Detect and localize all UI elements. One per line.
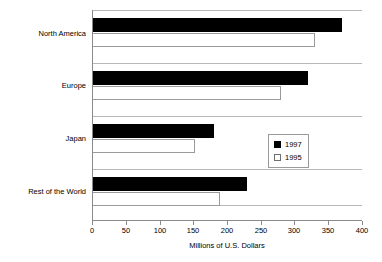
x-axis-tick-label-200: 200: [212, 226, 242, 235]
bar-europe-1997: [92, 71, 308, 85]
x-axis-tick-label-0: 0: [77, 226, 107, 235]
x-axis-tick: [328, 221, 329, 225]
bar-rest-of-the-world-1997: [92, 177, 247, 191]
bar-europe-1995: [92, 86, 281, 100]
x-axis-tick: [294, 221, 295, 225]
bar-rest-of-the-world-1995: [92, 192, 220, 206]
group-separator: [92, 169, 362, 170]
x-axis-tick: [227, 221, 228, 225]
x-axis-tick: [362, 221, 363, 225]
x-axis-tick-label-250: 250: [246, 226, 276, 235]
category-label-europe: Europe: [62, 81, 86, 90]
bar-north-america-1997: [92, 18, 342, 32]
x-axis-tick: [193, 221, 194, 225]
group-separator: [92, 63, 362, 64]
x-axis-tick: [160, 221, 161, 225]
legend-item-1995: 1995: [274, 152, 302, 163]
x-axis-tick-label-100: 100: [145, 226, 175, 235]
legend-label-1995: 1995: [285, 153, 302, 162]
bar-japan-1995: [92, 139, 195, 153]
x-axis-tick: [92, 221, 93, 225]
legend-swatch-filled-square-icon: [274, 141, 281, 148]
x-axis-tick: [261, 221, 262, 225]
x-axis-title: Millions of U.S. Dollars: [92, 241, 362, 250]
x-axis-tick-label-400: 400: [347, 226, 377, 235]
legend-swatch-open-square-icon: [274, 154, 281, 161]
legend-label-1997: 1997: [285, 140, 302, 149]
x-axis-tick-label-50: 50: [111, 226, 141, 235]
x-axis-tick-label-300: 300: [279, 226, 309, 235]
x-axis-tick-label-150: 150: [178, 226, 208, 235]
chart-legend: 1997 1995: [268, 134, 309, 168]
legend-item-1997: 1997: [274, 139, 302, 150]
x-axis-tick-label-350: 350: [313, 226, 343, 235]
category-label-rest-of-the-world: Rest of the World: [28, 187, 86, 196]
group-separator: [92, 116, 362, 117]
category-label-japan: Japan: [66, 134, 86, 143]
y-axis-line: [92, 10, 93, 221]
x-axis-tick: [126, 221, 127, 225]
category-label-north-america: North America: [38, 29, 86, 38]
bar-north-america-1995: [92, 33, 315, 47]
bar-chart: North America Europe Japan Rest of the W…: [0, 0, 382, 262]
bar-japan-1997: [92, 124, 214, 138]
group-separator: [92, 10, 362, 11]
